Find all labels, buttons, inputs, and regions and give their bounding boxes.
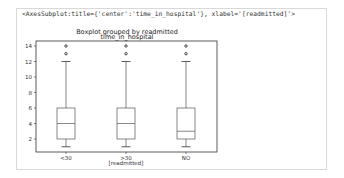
y-tick-label: 14	[25, 43, 32, 49]
outlier-point	[65, 53, 67, 55]
y-tick-label: 10	[25, 74, 32, 80]
x-tick-label: NO	[182, 155, 191, 161]
x-tick-label: <30	[60, 155, 72, 161]
outlier-point	[125, 53, 127, 55]
x-axis-label: [readmitted]	[109, 160, 144, 166]
y-tick-label: 8	[29, 90, 33, 96]
box-2	[177, 45, 195, 147]
y-tick-label: 2	[29, 136, 33, 142]
boxes	[57, 45, 195, 147]
boxplot-chart: Boxplot grouped by readmitted time_in_ho…	[0, 0, 344, 178]
outlier-point	[185, 53, 187, 55]
chart-subtitle: time_in_hospital	[101, 33, 154, 41]
outlier-point	[125, 45, 127, 47]
y-axis: 2468101214	[25, 43, 36, 142]
box-0	[57, 45, 75, 147]
y-tick-label: 12	[25, 59, 32, 65]
outlier-point	[65, 45, 67, 47]
outlier-point	[185, 45, 187, 47]
box-1	[117, 45, 135, 147]
y-tick-label: 6	[29, 105, 33, 111]
plot-frame	[36, 41, 217, 152]
y-tick-label: 4	[29, 121, 33, 127]
